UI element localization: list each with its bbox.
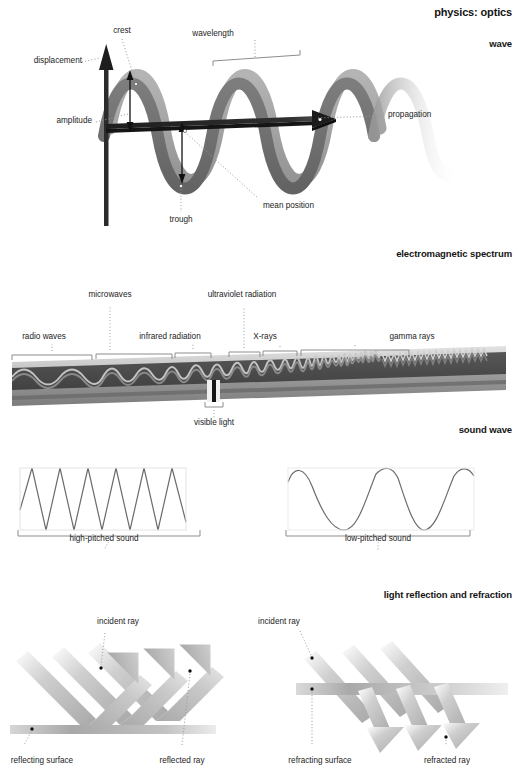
em-label-infrared-radiation: infrared radiation [139,333,200,341]
visible-light-stripe [207,380,220,402]
label-high-pitched-sound: high-pitched sound [69,535,138,543]
em-label-radio-waves: radio waves [22,333,66,341]
high-pitched-waveform [20,468,186,530]
label-low-pitched-sound: low-pitched sound [345,535,411,543]
em-label-visible-light: visible light [194,419,234,427]
label-amplitude: amplitude [56,117,92,125]
label-propagation: propagation [388,111,431,119]
amplitude-arrow [127,70,134,132]
label-displacement: displacement [34,57,82,65]
label-reflected-ray: reflected ray [159,757,204,765]
em-label-gamma-rays: gamma rays [389,333,434,341]
low-pitched-waveform [288,468,474,530]
label-crest: crest [113,27,131,35]
reflection-refraction-diagram [0,613,520,773]
label-refracting-surface: refracting surface [288,757,351,765]
sound-wave-diagram [0,450,520,600]
section-header-sound-wave: sound wave [459,424,512,435]
em-label-x-rays: X-rays [253,333,277,341]
reflecting-surface [10,725,216,734]
poster-page: physics: optics wave [0,0,520,773]
label-mean-position: mean position [263,202,314,210]
label-refracted-ray: refracted ray [424,757,470,765]
wave-ribbon [104,76,460,189]
em-label-ultraviolet-radiation: ultraviolet radiation [208,291,277,299]
label-reflecting-surface: reflecting surface [11,757,73,765]
label-wavelength: wavelength [192,30,233,38]
wavelength-bracket [213,50,300,66]
label-refraction-incident-ray: incident ray [258,618,300,626]
section-header-reflection-refraction: light reflection and refraction [384,589,512,600]
label-reflection-incident-ray: incident ray [97,618,139,626]
em-label-microwaves: microwaves [88,291,131,299]
label-trough: trough [169,216,192,224]
